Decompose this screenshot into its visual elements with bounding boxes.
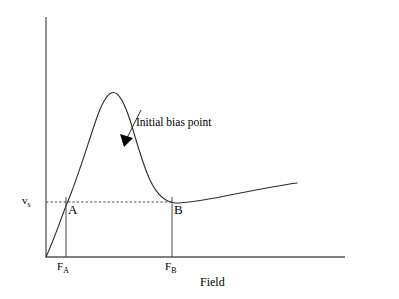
field-a-tick-label: FA — [57, 261, 69, 275]
velocity-field-figure: Velocity Field vs A B FA FB Initial bias… — [0, 0, 399, 299]
fa-subscript: A — [63, 266, 69, 275]
point-b-label: B — [174, 203, 183, 216]
x-axis-label: Field — [200, 276, 225, 288]
initial-bias-point-arrow-head — [120, 134, 133, 147]
plot-canvas — [0, 0, 399, 299]
field-b-tick-label: FB — [165, 261, 176, 275]
point-a-label: A — [68, 203, 77, 216]
vs-subscript: s — [28, 200, 31, 209]
saturation-velocity-tick-label: vs — [22, 195, 31, 209]
fb-subscript: B — [171, 266, 176, 275]
initial-bias-point-annotation: Initial bias point — [136, 117, 211, 129]
